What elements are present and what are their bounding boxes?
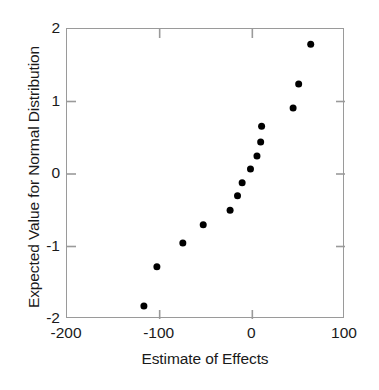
data-point	[140, 302, 147, 309]
x-axis-title: Estimate of Effects	[66, 350, 344, 368]
y-tick-label: 1	[51, 92, 60, 110]
data-point	[239, 179, 246, 186]
data-point	[227, 207, 234, 214]
x-tick-label: 0	[247, 324, 256, 342]
x-tick-label: 100	[331, 324, 357, 342]
data-point	[247, 165, 254, 172]
y-axis-title: Expected Value for Normal Distribution	[23, 17, 45, 337]
x-tick-label: -100	[143, 324, 174, 342]
data-point	[258, 123, 265, 130]
y-tick-label: -1	[46, 237, 60, 255]
data-point	[200, 221, 207, 228]
y-tick-label: 0	[51, 164, 60, 182]
scatter-plot-svg	[67, 29, 345, 319]
data-point	[234, 192, 241, 199]
plot-area	[66, 28, 344, 318]
y-tick-label: 2	[51, 19, 60, 37]
data-point	[307, 41, 314, 48]
data-point	[290, 105, 297, 112]
data-points	[140, 41, 314, 310]
data-point	[257, 139, 264, 146]
data-point	[295, 81, 302, 88]
data-point	[253, 152, 260, 159]
data-point	[179, 239, 186, 246]
figure: Expected Value for Normal Distribution -…	[0, 0, 379, 390]
x-tick-marks	[160, 29, 253, 319]
y-tick-label: -2	[46, 309, 60, 327]
data-point	[153, 263, 160, 270]
